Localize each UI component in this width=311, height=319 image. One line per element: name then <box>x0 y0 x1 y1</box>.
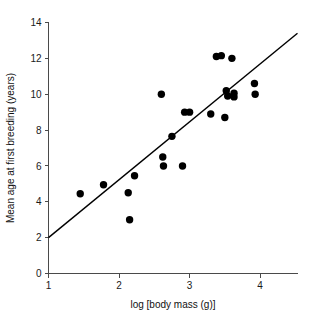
y-tick-label: 14 <box>30 17 42 28</box>
chart-canvas: 024681012141234log [body mass (g)]Mean a… <box>0 0 311 319</box>
scatter-plot-figure: 024681012141234log [body mass (g)]Mean a… <box>0 0 311 319</box>
data-point <box>159 153 166 160</box>
x-tick-label: 1 <box>46 280 52 291</box>
data-point <box>100 181 107 188</box>
data-point <box>221 114 228 121</box>
data-point <box>224 92 231 99</box>
data-point <box>126 216 133 223</box>
data-point <box>158 91 165 98</box>
data-point <box>77 190 84 197</box>
data-point <box>125 189 132 196</box>
data-point <box>179 162 186 169</box>
data-point <box>168 133 175 140</box>
data-point <box>207 110 214 117</box>
y-axis: 02468101214 <box>30 17 48 279</box>
x-axis: 1234 <box>46 274 264 291</box>
y-tick-label: 6 <box>36 161 42 172</box>
y-tick-label: 0 <box>36 268 42 279</box>
data-point <box>131 172 138 179</box>
y-tick-label: 4 <box>36 196 42 207</box>
y-tick-label: 12 <box>30 53 42 64</box>
data-point <box>160 162 167 169</box>
x-tick-label: 2 <box>116 280 122 291</box>
data-points-group <box>77 52 259 223</box>
data-point <box>230 93 237 100</box>
x-tick-label: 4 <box>257 280 263 291</box>
data-point <box>218 52 225 59</box>
y-axis-title: Mean age at first breeding (years) <box>5 73 16 223</box>
y-tick-label: 2 <box>36 232 42 243</box>
data-point <box>251 91 258 98</box>
y-tick-label: 8 <box>36 125 42 136</box>
data-point <box>228 55 235 62</box>
x-axis-title: log [body mass (g)] <box>130 299 215 310</box>
axis-spines <box>49 23 298 274</box>
x-tick-label: 3 <box>187 280 193 291</box>
data-point <box>186 108 193 115</box>
y-tick-label: 10 <box>30 89 42 100</box>
data-point <box>251 80 258 87</box>
